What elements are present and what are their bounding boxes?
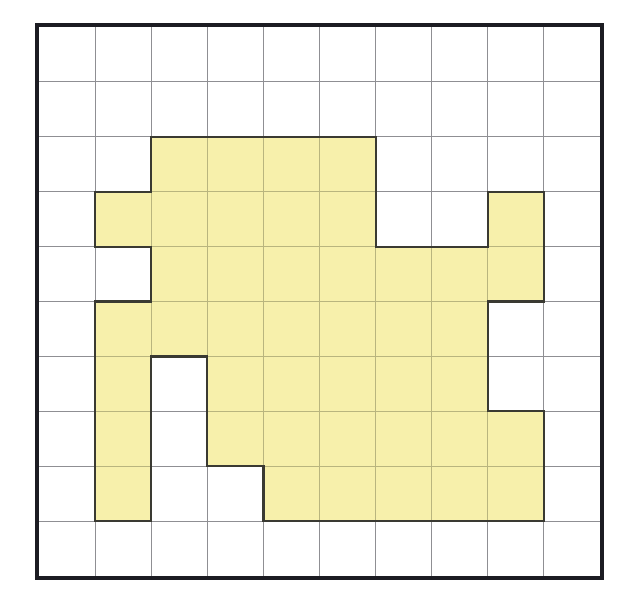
shaded-cell [432,411,489,466]
shaded-cell [207,356,264,411]
shaded-cell [320,356,377,411]
shaded-cell [207,247,264,302]
shaded-cell [207,411,264,466]
shaded-cell [376,411,433,466]
shaded-cell [432,302,489,357]
shaded-cell [320,192,377,247]
shaded-cell [432,466,489,521]
shaded-cell [95,356,152,411]
shaded-cell [432,356,489,411]
shaded-cell [207,137,264,192]
shaded-cell [263,466,320,521]
shaded-cell [151,247,208,302]
shaded-cell [376,466,433,521]
shaded-cell [263,302,320,357]
shaded-cell [488,192,545,247]
shaded-cell [151,137,208,192]
shaded-cell [151,302,208,357]
shaded-cell [320,302,377,357]
shaded-cell [320,411,377,466]
shaded-cell [95,192,152,247]
shaded-cell [488,247,545,302]
shaded-cell [376,302,433,357]
shaded-cell [151,192,208,247]
grid-frame [35,23,604,580]
figure-canvas [0,0,619,600]
shaded-cell [263,411,320,466]
shaded-cell [320,247,377,302]
shaded-cell [207,302,264,357]
shaded-cell [207,192,264,247]
shaded-cell [263,137,320,192]
shaded-cell [488,411,545,466]
shaded-cell [432,247,489,302]
shaded-cell [95,466,152,521]
grid-svg [35,23,604,580]
shaded-cell [95,302,152,357]
shaded-cell [263,192,320,247]
shaded-cell [263,356,320,411]
shaded-cell [488,466,545,521]
shaded-cell [320,137,377,192]
shaded-cell [263,247,320,302]
shaded-cell [320,466,377,521]
shaded-cell [95,411,152,466]
shaded-cell [376,356,433,411]
shaded-cell [376,247,433,302]
